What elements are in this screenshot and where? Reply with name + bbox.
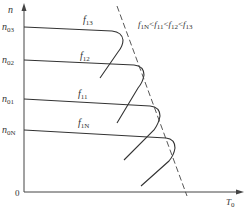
critical-boundary-dashed-line bbox=[117, 6, 187, 196]
y-axis-label: n bbox=[8, 4, 13, 15]
frequency-speed-torque-diagram: n 0 T0 n03 n02 n01 n0N f13 f12 f11 f1N f… bbox=[0, 0, 249, 208]
y-axis-arrow-icon bbox=[22, 3, 27, 11]
tick-n03: n03 bbox=[2, 21, 15, 34]
axes bbox=[22, 3, 245, 195]
y-tick-labels: n03 n02 n01 n0N bbox=[2, 21, 16, 137]
frequency-relation-annotation: f1N<f11<f12<f13 bbox=[138, 19, 193, 31]
origin-label: 0 bbox=[15, 188, 20, 198]
x-axis-arrow-icon bbox=[236, 190, 244, 195]
x-axis-label-sub: 0 bbox=[231, 201, 235, 208]
curve-f12 bbox=[24, 60, 144, 123]
curve-f1N bbox=[24, 130, 175, 186]
label-f11: f11 bbox=[78, 88, 88, 101]
curves bbox=[24, 27, 175, 186]
curve-f11 bbox=[24, 99, 160, 160]
tick-n01: n01 bbox=[2, 93, 15, 106]
label-f1N: f1N bbox=[78, 117, 89, 130]
x-axis-label: T0 bbox=[226, 197, 235, 208]
label-f13: f13 bbox=[83, 14, 93, 27]
tick-n0N: n0N bbox=[2, 124, 16, 137]
tick-n02: n02 bbox=[2, 54, 15, 67]
curve-f13 bbox=[24, 27, 123, 78]
curve-labels: f13 f12 f11 f1N bbox=[78, 14, 93, 130]
label-f12: f12 bbox=[80, 50, 90, 63]
